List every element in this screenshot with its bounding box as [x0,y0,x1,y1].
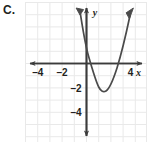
y-axis-name-label: y [92,7,98,18]
x-tick-label-neg4: –4 [32,67,44,78]
y-tick-label-neg2: –2 [70,83,82,94]
graph-svg: –4 –2 4 –2 –4 x y [25,2,147,142]
coordinate-graph: –4 –2 4 –2 –4 x y [25,2,147,142]
x-tick-label-4: 4 [128,67,134,78]
x-axis-name-label: x [135,67,141,78]
choice-letter-label: C. [3,4,15,16]
y-tick-label-neg4: –4 [70,107,82,118]
x-tick-label-neg2: –2 [57,67,69,78]
graph-choice-card: C. [0,0,153,147]
